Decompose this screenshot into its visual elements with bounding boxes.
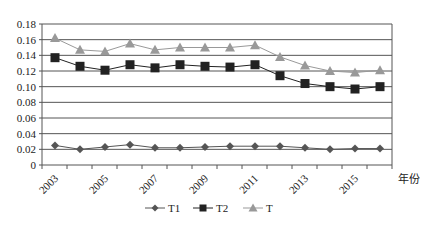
x-tick-label: 2003 <box>36 172 60 196</box>
legend-label: T1 <box>168 202 180 214</box>
triangle-marker <box>275 52 285 61</box>
square-marker <box>76 62 85 71</box>
square-marker <box>126 60 135 69</box>
square-marker <box>376 82 385 91</box>
legend-label: T2 <box>216 202 228 214</box>
diamond-marker <box>51 141 59 149</box>
triangle-marker <box>375 65 385 74</box>
y-tick-label: 0 <box>31 159 37 171</box>
series-t2 <box>51 53 385 93</box>
y-tick-label: 0.04 <box>17 128 37 140</box>
diamond-marker <box>152 205 159 212</box>
y-tick-label: 0.14 <box>17 49 37 61</box>
x-axis-label: 年份 <box>398 172 420 185</box>
triangle-marker <box>250 40 260 49</box>
legend-item-t1: T1 <box>145 202 180 214</box>
diamond-marker <box>351 145 359 153</box>
square-marker <box>276 71 285 80</box>
x-tick-label: 2007 <box>136 172 160 196</box>
y-tick-label: 0.18 <box>17 18 37 30</box>
legend-item-t2: T2 <box>193 202 228 214</box>
y-tick-label: 0.02 <box>17 143 36 155</box>
diamond-marker <box>301 144 309 152</box>
square-marker <box>326 82 335 91</box>
diamond-marker <box>126 141 134 149</box>
diamond-marker <box>76 145 84 153</box>
square-marker <box>251 60 260 69</box>
y-tick-label: 0.10 <box>17 81 37 93</box>
gridlines <box>42 24 392 149</box>
x-axis: 2003200520072009201120132015 <box>36 165 392 196</box>
square-marker <box>201 62 210 71</box>
triangle-marker <box>50 33 60 42</box>
y-tick-label: 0.08 <box>17 96 37 108</box>
x-tick-label: 2005 <box>86 172 110 196</box>
legend-item-t: T <box>243 202 273 214</box>
square-marker <box>151 63 160 72</box>
square-marker <box>351 85 360 94</box>
x-tick-label: 2009 <box>186 172 210 196</box>
diamond-marker <box>326 145 334 153</box>
legend: T1T2T <box>145 202 273 214</box>
diamond-marker <box>176 144 184 152</box>
triangle-marker <box>300 61 310 70</box>
triangle-marker <box>75 45 85 54</box>
line-chart: 00.020.040.060.080.100.120.140.160.18 20… <box>0 0 427 227</box>
diamond-marker <box>151 144 159 152</box>
x-tick-label: 2015 <box>336 172 360 196</box>
diamond-marker <box>376 145 384 153</box>
square-marker <box>301 79 310 88</box>
x-tick-label: 2013 <box>286 172 310 196</box>
legend-label: T <box>266 202 273 214</box>
series-lines <box>50 33 385 153</box>
y-tick-label: 0.12 <box>17 65 36 77</box>
x-tick-label: 2011 <box>237 172 261 196</box>
square-marker <box>226 63 235 72</box>
y-tick-label: 0.06 <box>17 112 37 124</box>
square-marker <box>200 205 207 212</box>
square-marker <box>51 53 60 62</box>
square-marker <box>101 66 110 75</box>
square-marker <box>176 60 185 69</box>
y-tick-label: 0.16 <box>17 34 37 46</box>
series-t1 <box>51 141 384 154</box>
